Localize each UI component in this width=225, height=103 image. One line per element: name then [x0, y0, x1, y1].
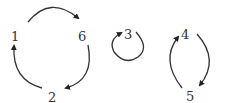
- edge-2-to-1: [14, 46, 42, 88]
- node-3: 3: [124, 28, 132, 41]
- node-5: 5: [186, 90, 194, 103]
- edge-6-to-2: [66, 45, 89, 88]
- node-2: 2: [48, 91, 56, 103]
- node-1: 1: [11, 30, 19, 43]
- edge-1-to-6: [28, 7, 78, 22]
- node-4: 4: [181, 28, 189, 41]
- node-6: 6: [78, 30, 86, 43]
- edge-5-to-4: [170, 37, 182, 88]
- cycle-diagram: [0, 0, 225, 103]
- edge-4-to-5: [197, 34, 209, 85]
